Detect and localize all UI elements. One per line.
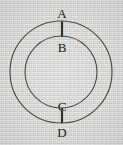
point-label-b: B [54,41,70,54]
point-label-c: C [54,100,70,113]
point-label-d: D [54,126,70,139]
geometry-figure: A B C D [0,0,123,145]
concentric-circles-diagram [0,0,123,145]
point-label-a: A [54,7,70,20]
